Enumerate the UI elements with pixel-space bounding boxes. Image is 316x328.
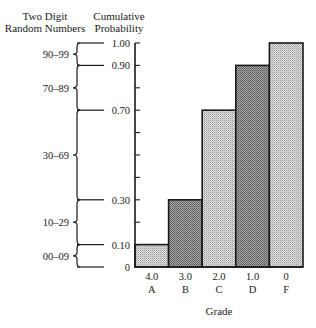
bar-d	[236, 65, 270, 267]
y-tick-label: 0.30	[112, 195, 130, 206]
brace-10–29	[73, 200, 80, 245]
grade-letter-label: B	[182, 284, 189, 295]
random-range-label: 00–09	[43, 251, 69, 262]
brace-30–69	[73, 110, 80, 200]
grade-point-label: 0	[284, 271, 289, 282]
y-tick-label: 0.70	[112, 105, 130, 116]
grade-point-label: 1.0	[246, 271, 259, 282]
random-number-braces: 00–0910–2930–6970–8990–99	[43, 43, 104, 267]
x-axis-title: Grade	[206, 305, 233, 317]
y-tick-label: 0	[125, 262, 130, 273]
bar-a	[135, 245, 169, 267]
grade-letter-label: F	[283, 284, 289, 295]
y-tick-label: 0.10	[112, 240, 130, 251]
bars-group	[135, 43, 303, 267]
grade-letter-label: C	[215, 284, 222, 295]
random-range-label: 10–29	[43, 217, 69, 228]
grade-point-label: 3.0	[179, 271, 192, 282]
grade-letter-label: A	[148, 284, 156, 295]
brace-90–99	[73, 43, 80, 65]
x-axis-labels: 4.0A3.0B2.0C1.0D0F	[145, 271, 289, 295]
grade-letter-label: D	[249, 284, 257, 295]
bar-b	[169, 200, 203, 267]
bar-c	[202, 110, 236, 267]
bar-f	[269, 43, 303, 267]
brace-00–09	[73, 245, 80, 267]
grade-point-label: 4.0	[145, 271, 158, 282]
brace-70–89	[73, 65, 80, 110]
grade-point-label: 2.0	[212, 271, 225, 282]
random-range-label: 70–89	[43, 83, 69, 94]
y-tick-label: 1.00	[112, 38, 130, 49]
y-tick-label: 0.90	[112, 60, 130, 71]
random-range-label: 30–69	[43, 150, 69, 161]
cumulative-probability-chart: 00.100.300.700.901.00 00–0910–2930–6970–…	[0, 0, 316, 328]
random-range-label: 90–99	[43, 49, 69, 60]
